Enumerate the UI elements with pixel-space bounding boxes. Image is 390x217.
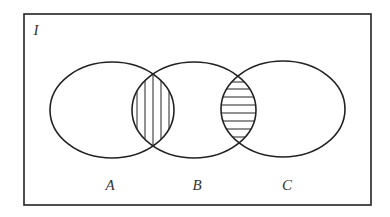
set-a-ellipse [50, 62, 174, 158]
intersection-b-c-hatch [200, 82, 280, 137]
intersection-a-b-hatch [137, 55, 169, 165]
set-c-label: C [282, 178, 292, 193]
universe-label: I [34, 23, 39, 38]
set-a-label: A [105, 178, 114, 193]
set-b-label: B [192, 178, 201, 193]
set-c-ellipse [221, 61, 345, 157]
